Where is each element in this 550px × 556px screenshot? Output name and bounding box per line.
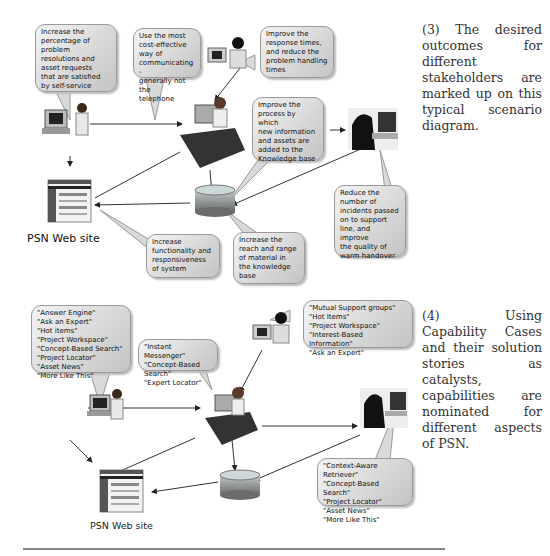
bubble-cost-effective: Use the most cost-effective way of commu… [133, 28, 201, 78]
bubble-response-times: Improve the response times, and reduce t… [260, 26, 334, 78]
support-person-2 [253, 312, 289, 343]
website-thumbnail-2 [100, 470, 143, 512]
agent-desk-2 [205, 387, 258, 445]
bubble-specialist-capabilities: "Context-Aware Retriever" "Concept-Based… [317, 458, 413, 506]
database-cylinder [195, 185, 235, 217]
bubble-functionality: Increase functionality and responsivenes… [146, 234, 220, 278]
database-cylinder-2 [220, 470, 260, 500]
specialist-2 [360, 388, 408, 428]
website-thumbnail-1 [48, 180, 91, 222]
psn-web-site-label-2: PSN Web site [90, 520, 153, 531]
caption-figure-4: (4) Using Capability Cases and their sol… [422, 308, 542, 452]
caption-figure-3: (3) The desired outcomes for different s… [422, 22, 542, 134]
specialist-1 [348, 108, 398, 150]
psn-web-site-label: PSN Web site [27, 232, 100, 245]
bubble-service-desk-capabilities: "Instant Messenger" "Concept-Based Searc… [138, 339, 218, 371]
support-person-1 [208, 37, 246, 68]
bubble-knowledge-process: Improve the process by which new informa… [252, 97, 324, 161]
bubble-support-capabilities: "Mutual Support groups" "Hot Items" "Pro… [303, 300, 413, 348]
bubble-reach-range: Increase the reach and range of material… [233, 232, 305, 284]
bubble-reduce-incidents: Reduce the number of incidents passed on… [334, 185, 406, 257]
user-workstation-2 [87, 389, 123, 419]
bubble-self-service: Increase the percentage of problem resol… [35, 24, 117, 92]
bubble-end-user-capabilities: "Answer Engine" "Ask an Expert" "Hot ite… [31, 305, 131, 373]
section-divider [23, 548, 445, 550]
agent-desk-1 [180, 97, 245, 168]
